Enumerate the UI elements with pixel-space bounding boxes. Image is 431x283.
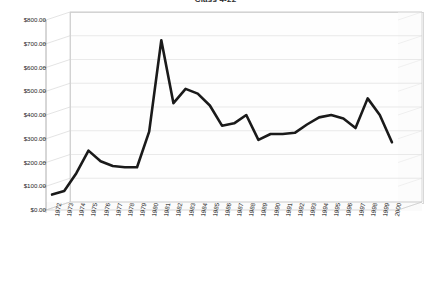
x-axis-tick-label: 1984: [200, 202, 208, 217]
x-axis-tick-label: 1975: [90, 202, 98, 217]
x-axis-tick-label: 1973: [66, 202, 74, 217]
x-axis-tick-label: 1992: [297, 202, 305, 217]
chart-3d-line: Class 4-22 $800.00$700.00$600.00$500.00$…: [0, 0, 431, 283]
x-axis-tick-label: 1980: [151, 202, 159, 217]
x-axis-tick-label: 1972: [54, 202, 62, 217]
x-axis-tick-label: 1982: [175, 202, 183, 217]
x-axis-tick-label: 1981: [163, 202, 171, 217]
x-axis-tick-label: 1977: [115, 202, 123, 217]
x-axis-tick-label: 1987: [236, 202, 244, 217]
x-axis-tick-label: 1990: [273, 202, 281, 217]
x-axis-tick-label: 1978: [127, 202, 135, 217]
x-axis-tick-label: 1988: [248, 202, 256, 217]
x-axis-tick-label: 1991: [285, 202, 293, 217]
x-axis-tick-label: 1994: [321, 202, 329, 217]
x-axis-tick-label: 1996: [345, 202, 353, 217]
x-axis-tick-label: 1995: [333, 202, 341, 217]
x-axis-tick-label: 1999: [382, 202, 390, 217]
x-axis-tick-label: 1998: [370, 202, 378, 217]
x-axis-tick-label: 2000: [394, 202, 402, 217]
x-axis-tick-label: 1974: [78, 202, 86, 217]
x-axis-tick-label: 1983: [188, 202, 196, 217]
x-axis-tick-label: 1985: [212, 202, 220, 217]
x-axis-tick-label: 1976: [103, 202, 111, 217]
x-axis-tick-label: 1997: [358, 202, 366, 217]
x-axis-tick-label: 1989: [260, 202, 268, 217]
x-axis-tick-label: 1979: [139, 202, 147, 217]
x-axis-tick-label: 1993: [309, 202, 317, 217]
x-axis-labels: 1972197319741975197619771978197919801981…: [0, 0, 431, 283]
x-axis-tick-label: 1986: [224, 202, 232, 217]
